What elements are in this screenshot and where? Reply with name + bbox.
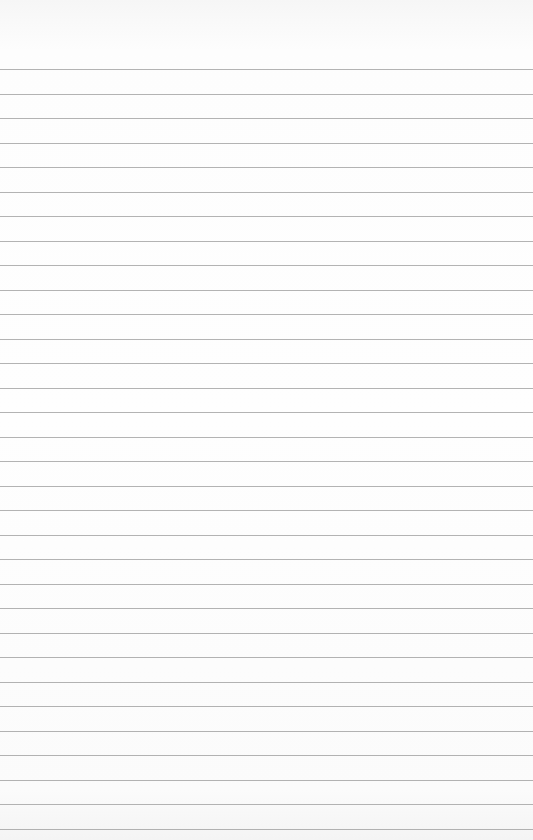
ruled-line [0,314,533,315]
ruled-line [0,290,533,291]
ruled-line [0,804,533,805]
ruled-line [0,437,533,438]
lined-paper [0,0,533,840]
ruled-line [0,461,533,462]
ruled-line [0,363,533,364]
ruled-line [0,510,533,511]
ruled-line [0,143,533,144]
ruled-line [0,388,533,389]
ruled-line [0,412,533,413]
ruled-line [0,94,533,95]
ruled-line [0,731,533,732]
ruled-line [0,755,533,756]
ruled-line [0,192,533,193]
ruled-line [0,657,533,658]
ruled-line [0,535,533,536]
ruled-line [0,339,533,340]
ruled-line [0,780,533,781]
ruled-line [0,829,533,830]
ruled-line [0,69,533,70]
ruled-line [0,118,533,119]
ruled-line [0,608,533,609]
ruled-line [0,633,533,634]
ruled-line [0,706,533,707]
ruled-line [0,486,533,487]
ruled-line [0,682,533,683]
ruled-line [0,559,533,560]
ruled-line [0,167,533,168]
ruled-line [0,584,533,585]
ruled-line [0,241,533,242]
ruled-line [0,216,533,217]
ruled-line [0,265,533,266]
